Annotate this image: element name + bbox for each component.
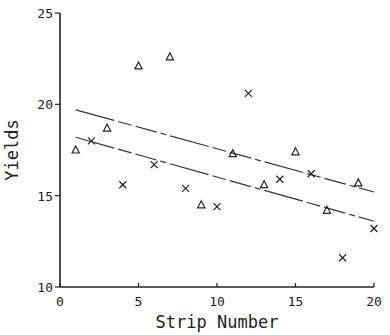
x-tick-label: 20 — [366, 294, 382, 309]
triangle-marker — [292, 148, 299, 155]
cross-marker — [276, 176, 283, 183]
axes: 0510152010152025 — [37, 6, 381, 309]
cross-marker — [214, 203, 221, 210]
x-tick-label: 5 — [135, 294, 143, 309]
x-tick-label: 10 — [209, 294, 225, 309]
cross-marker — [371, 225, 378, 232]
triangle-marker — [198, 201, 205, 208]
cross-marker — [151, 161, 158, 168]
cross-marker — [182, 185, 189, 192]
cross-marker — [119, 181, 126, 188]
y-axis-label: Yields — [2, 119, 22, 180]
triangle-marker — [166, 53, 173, 60]
triangle-marker — [104, 124, 111, 131]
triangle-marker — [355, 179, 362, 186]
cross-marker — [339, 254, 346, 261]
y-tick-label: 15 — [37, 189, 53, 204]
data-points — [72, 53, 377, 261]
cross-marker — [245, 90, 252, 97]
y-tick-label: 20 — [37, 97, 53, 112]
x-axis-label: Strip Number — [156, 312, 279, 332]
y-tick-label: 10 — [37, 280, 53, 295]
triangle-marker — [72, 146, 79, 153]
fit-lines — [76, 110, 374, 221]
x-tick-label: 0 — [56, 294, 64, 309]
triangle-marker — [261, 181, 268, 188]
triangle-marker — [135, 62, 142, 69]
y-tick-label: 25 — [37, 6, 53, 21]
x-tick-label: 15 — [288, 294, 304, 309]
scatter-chart: 0510152010152025 Strip Number Yields — [0, 0, 390, 335]
